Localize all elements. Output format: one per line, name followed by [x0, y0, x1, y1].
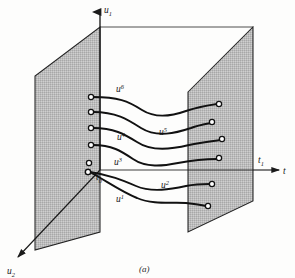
- diagram-svg: u1 u2 t t0 t1 u6 u5 u4 u3 u2 u1 (a): [0, 0, 295, 278]
- curve-label-u5: u5: [159, 126, 167, 137]
- tick-t0: [85, 169, 90, 174]
- plane-t1: [188, 27, 253, 232]
- endpoint-u2-start: [86, 160, 91, 165]
- curve-label-u3: u3: [114, 156, 122, 167]
- axis-label-t: t: [283, 166, 286, 176]
- axis-label-u2: u2: [7, 266, 16, 278]
- endpoint-u6-start: [88, 94, 93, 99]
- axis-label-u1: u1: [104, 5, 112, 17]
- figure-caption: (a): [139, 264, 150, 274]
- figure-container: u1 u2 t t0 t1 u6 u5 u4 u3 u2 u1 (a): [0, 0, 295, 278]
- endpoint-u3-end: [216, 155, 221, 160]
- endpoint-u5-end: [209, 119, 214, 124]
- endpoint-u6-end: [216, 101, 221, 106]
- endpoint-u2-end: [209, 181, 214, 186]
- endpoint-u4-start: [88, 125, 93, 130]
- marker-label-t1: t1: [258, 155, 264, 167]
- endpoint-u3-start: [88, 142, 93, 147]
- curve-label-u1: u1: [116, 193, 124, 204]
- plane-t0: [35, 27, 100, 250]
- curve-label-u4: u4: [117, 131, 126, 142]
- endpoint-u5-start: [88, 109, 93, 114]
- endpoint-u1-end: [205, 203, 210, 208]
- endpoint-u4-end: [219, 136, 224, 141]
- curve-label-u6: u6: [116, 83, 125, 94]
